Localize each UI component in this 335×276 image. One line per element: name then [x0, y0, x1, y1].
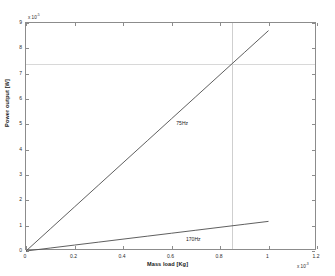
- series-line-75hz: [26, 31, 269, 251]
- x-tick-label: 0.2: [70, 253, 77, 259]
- x-tick-label: 0: [24, 253, 27, 259]
- x-tick-label: 1: [266, 253, 269, 259]
- y-axis-title: Power output [W]: [4, 48, 10, 158]
- y-tick-label: 3: [8, 171, 22, 177]
- y-tick-label: 4: [8, 146, 22, 152]
- y-tick-label: 2: [8, 196, 22, 202]
- data-series-layer: [26, 23, 317, 251]
- y-tick-label: 7: [8, 70, 22, 76]
- y-axis-exponent-power: -5: [37, 13, 40, 17]
- y-tick-label: 5: [8, 120, 22, 126]
- y-axis-exponent-base: x 10: [28, 15, 37, 20]
- x-axis-title: Mass load [Kg]: [0, 261, 335, 267]
- y-tick-label: 8: [8, 44, 22, 50]
- plot-area: 75Hz170Hz: [25, 22, 316, 250]
- x-tick-label: 0.4: [119, 253, 126, 259]
- y-tick-mark-right: [312, 251, 315, 252]
- x-tick-label: 1.2: [313, 253, 320, 259]
- y-tick-label: 9: [8, 19, 22, 25]
- series-line-170hz: [26, 221, 269, 251]
- x-tick-label: 0.8: [216, 253, 223, 259]
- y-tick-label: 1: [8, 222, 22, 228]
- x-tick-label: 0.6: [167, 253, 174, 259]
- x-tick-mark: [317, 246, 318, 249]
- series-annotation-75hz: 75Hz: [176, 120, 188, 126]
- x-tick-mark-top: [317, 23, 318, 26]
- y-axis-exponent-label: x 10-5: [28, 13, 40, 20]
- series-annotation-170hz: 170Hz: [186, 236, 200, 242]
- figure-canvas: x 10-5 x 10-3 Mass load [Kg] Power outpu…: [0, 0, 335, 276]
- y-tick-label: 0: [8, 247, 22, 253]
- y-tick-label: 6: [8, 95, 22, 101]
